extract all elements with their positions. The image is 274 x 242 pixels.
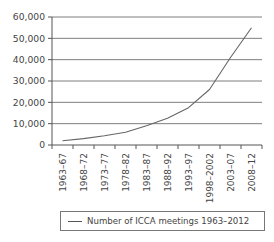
legend: Number of ICCA meetings 1963–2012 bbox=[60, 211, 265, 231]
x-tick-label: 1978–82 bbox=[121, 153, 131, 192]
y-tick-label: 60,000 bbox=[13, 11, 45, 22]
gridlines bbox=[52, 17, 262, 124]
x-tick-label: 2003–07 bbox=[226, 153, 236, 192]
y-tick-label: 20,000 bbox=[13, 97, 45, 108]
x-tick-label: 1963–67 bbox=[58, 153, 68, 192]
x-tick-label: 1973–77 bbox=[100, 153, 110, 192]
y-tick-label: 10,000 bbox=[13, 118, 45, 129]
x-tick-label: 1968–72 bbox=[79, 153, 89, 192]
y-tick-label: 50,000 bbox=[13, 33, 45, 44]
y-axis: 010,00020,00030,00040,00050,00060,000 bbox=[13, 11, 52, 150]
line-chart: 010,00020,00030,00040,00050,00060,000 19… bbox=[0, 0, 274, 242]
x-tick-label: 1993–97 bbox=[184, 153, 194, 192]
legend-label: Number of ICCA meetings 1963–2012 bbox=[87, 216, 249, 226]
x-axis: 1963–671968–721973–771978–821983–871988–… bbox=[52, 145, 262, 203]
x-tick-label: 1998–2002 bbox=[205, 153, 215, 203]
x-tick-label: 1983–87 bbox=[142, 153, 152, 192]
x-tick-label: 1988–92 bbox=[163, 153, 173, 192]
y-tick-label: 0 bbox=[39, 139, 45, 150]
x-tick-label: 2008–12 bbox=[247, 153, 257, 192]
y-tick-label: 40,000 bbox=[13, 54, 45, 65]
legend-line-icon bbox=[68, 221, 82, 222]
y-tick-label: 30,000 bbox=[13, 75, 45, 86]
